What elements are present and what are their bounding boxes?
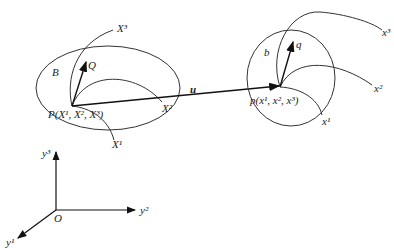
label-y1: y¹ <box>5 236 14 248</box>
label-b: b <box>264 46 270 58</box>
label-u: u <box>190 83 196 95</box>
label-y3: y³ <box>41 147 51 159</box>
label-p: p(x¹, x², x³) <box>249 94 299 107</box>
label-x1: x¹ <box>321 115 330 127</box>
label-x2: x² <box>373 82 383 94</box>
label-P: P(X¹, X², X³) <box>47 108 103 121</box>
vector-q <box>280 42 293 87</box>
label-Q: Q <box>88 59 96 71</box>
label-X1: X¹ <box>111 138 122 150</box>
axis-y1 <box>18 210 56 238</box>
continuum-deformation-diagram: B Q P(X¹, X², X³) X³ X² X¹ u b q p(x¹, x… <box>0 0 394 250</box>
label-q: q <box>296 38 302 50</box>
curve-x3 <box>277 12 382 87</box>
label-y2: y² <box>139 204 149 216</box>
label-X3: X³ <box>116 22 128 34</box>
global-frame <box>18 152 135 238</box>
current-body <box>247 12 382 126</box>
curve-x2 <box>280 65 372 87</box>
label-B: B <box>52 66 59 78</box>
region-b-outline <box>247 30 335 126</box>
label-x3: x³ <box>381 26 391 38</box>
label-O: O <box>54 212 62 224</box>
initial-body <box>36 30 180 140</box>
label-X2: X² <box>161 102 173 114</box>
